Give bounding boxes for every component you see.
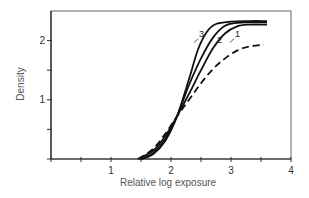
y-tick-label: 2 xyxy=(39,35,45,46)
curve-label-leader xyxy=(230,39,234,43)
data-series xyxy=(138,21,267,159)
plot-frame xyxy=(51,11,291,159)
x-tick-label: 1 xyxy=(108,165,114,176)
plot-border xyxy=(51,11,291,159)
curve-label-3: 3 xyxy=(199,29,204,39)
x-tick-label: 4 xyxy=(288,165,294,176)
y-axis-label: Density xyxy=(15,67,26,100)
y-tick-label: 1 xyxy=(39,94,45,105)
curve-label-1: 1 xyxy=(235,29,240,39)
curve-label-2: 2 xyxy=(217,35,222,45)
x-tick-label: 2 xyxy=(168,165,174,176)
x-axis-label: Relative log exposure xyxy=(120,177,216,188)
y-axis-ticks: 12 xyxy=(39,35,52,159)
curve-3 xyxy=(141,21,267,159)
curve-2 xyxy=(141,22,267,159)
x-tick-label: 3 xyxy=(228,165,234,176)
curve-unlabeled-dashed- xyxy=(138,45,264,159)
characteristic-curve-chart: 1234 12 321 xyxy=(0,0,309,198)
curve-1 xyxy=(138,24,267,159)
x-axis-ticks: 1234 xyxy=(51,157,294,176)
curve-label-leader xyxy=(194,39,198,43)
